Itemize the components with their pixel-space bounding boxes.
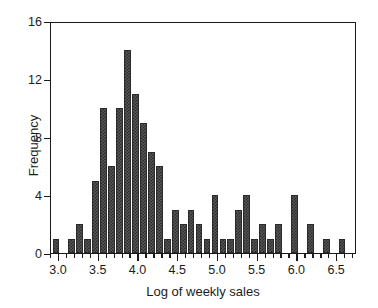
histogram-bar bbox=[108, 166, 115, 253]
histogram-bar bbox=[227, 239, 234, 254]
x-axis-tick-label: 3.0 bbox=[49, 263, 66, 277]
x-axis-minor-tick bbox=[265, 254, 266, 258]
x-axis-minor-tick bbox=[249, 254, 250, 258]
histogram-bar bbox=[196, 224, 203, 253]
x-axis-minor-tick bbox=[288, 254, 289, 258]
histogram-bar bbox=[132, 94, 139, 254]
histogram-bar bbox=[164, 239, 171, 254]
y-axis-tick-label: 16 bbox=[14, 15, 42, 29]
x-axis-minor-tick bbox=[233, 254, 234, 258]
histogram-bar bbox=[180, 224, 187, 253]
x-axis-minor-tick bbox=[209, 254, 210, 258]
y-axis-major-tick bbox=[44, 138, 51, 139]
x-axis-minor-tick bbox=[122, 254, 123, 258]
x-axis-tick-label: 4.5 bbox=[168, 263, 185, 277]
x-axis-minor-tick bbox=[328, 254, 329, 258]
x-axis-major-tick bbox=[336, 254, 337, 261]
y-axis-major-tick bbox=[44, 22, 51, 23]
x-axis-tick-label: 3.5 bbox=[89, 263, 106, 277]
x-axis-tick-label: 5.0 bbox=[208, 263, 225, 277]
x-axis-minor-tick bbox=[312, 254, 313, 258]
x-axis-minor-tick bbox=[114, 254, 115, 258]
histogram-bar bbox=[92, 181, 99, 254]
histogram-bar bbox=[291, 195, 298, 253]
histogram-bar bbox=[53, 239, 60, 254]
histogram-bar bbox=[275, 224, 282, 253]
x-axis-minor-tick bbox=[129, 254, 130, 258]
y-axis-label: Frequency bbox=[26, 66, 41, 226]
x-axis-tick-label: 4.0 bbox=[129, 263, 146, 277]
x-axis-minor-tick bbox=[201, 254, 202, 258]
x-axis-minor-tick bbox=[74, 254, 75, 258]
x-axis-minor-tick bbox=[185, 254, 186, 258]
histogram-bar bbox=[212, 195, 219, 253]
histogram-bar bbox=[116, 108, 123, 253]
x-axis-minor-tick bbox=[320, 254, 321, 258]
histogram-bar bbox=[68, 239, 75, 254]
x-axis-major-tick bbox=[177, 254, 178, 261]
x-axis-minor-tick bbox=[66, 254, 67, 258]
histogram-bar bbox=[204, 239, 211, 254]
x-axis-minor-tick bbox=[273, 254, 274, 258]
x-axis-minor-tick bbox=[169, 254, 170, 258]
histogram-bar bbox=[140, 123, 147, 254]
x-axis-major-tick bbox=[296, 254, 297, 261]
histogram-bar bbox=[243, 195, 250, 253]
x-axis-tick-label: 5.5 bbox=[248, 263, 265, 277]
y-axis-major-tick bbox=[44, 254, 51, 255]
histogram-bar bbox=[323, 239, 330, 254]
x-axis-minor-tick bbox=[153, 254, 154, 258]
x-axis-tick-label: 6.0 bbox=[288, 263, 305, 277]
x-axis-minor-tick bbox=[50, 254, 51, 258]
x-axis-minor-tick bbox=[352, 254, 353, 258]
histogram-bar bbox=[76, 224, 83, 253]
histogram-bar bbox=[156, 166, 163, 253]
x-axis-minor-tick bbox=[90, 254, 91, 258]
x-axis-minor-tick bbox=[344, 254, 345, 258]
histogram-bar bbox=[84, 239, 91, 254]
x-axis-tick-label: 6.5 bbox=[327, 263, 344, 277]
x-axis-label: Log of weekly sales bbox=[50, 284, 356, 299]
x-axis-minor-tick bbox=[225, 254, 226, 258]
histogram-figure: 3.03.54.04.55.05.56.06.5 0481216 Log of … bbox=[0, 0, 378, 308]
x-axis-minor-tick bbox=[280, 254, 281, 258]
y-axis-tick-label: 0 bbox=[14, 247, 42, 261]
x-axis-major-tick bbox=[137, 254, 138, 261]
histogram-bar bbox=[339, 239, 346, 254]
histogram-bar bbox=[251, 239, 258, 254]
histogram-bar bbox=[100, 108, 107, 253]
x-axis-minor-tick bbox=[304, 254, 305, 258]
histogram-bar bbox=[188, 210, 195, 254]
x-axis-major-tick bbox=[98, 254, 99, 261]
histogram-bar bbox=[172, 210, 179, 254]
histogram-bar bbox=[220, 239, 227, 254]
x-axis-major-tick bbox=[58, 254, 59, 261]
x-axis-minor-tick bbox=[241, 254, 242, 258]
x-axis-minor-tick bbox=[106, 254, 107, 258]
x-axis-minor-tick bbox=[145, 254, 146, 258]
histogram-bar bbox=[267, 239, 274, 254]
y-axis-major-tick bbox=[44, 80, 51, 81]
histogram-bar bbox=[307, 224, 314, 253]
plot-frame bbox=[50, 22, 356, 254]
plot-area bbox=[51, 23, 355, 253]
x-axis-minor-tick bbox=[161, 254, 162, 258]
x-axis-major-tick bbox=[217, 254, 218, 261]
x-axis-minor-tick bbox=[193, 254, 194, 258]
histogram-bar bbox=[259, 224, 266, 253]
x-axis-major-tick bbox=[257, 254, 258, 261]
histogram-bar bbox=[148, 152, 155, 254]
x-axis-minor-tick bbox=[82, 254, 83, 258]
y-axis-major-tick bbox=[44, 196, 51, 197]
histogram-bar bbox=[124, 50, 131, 253]
histogram-bar bbox=[235, 210, 242, 254]
